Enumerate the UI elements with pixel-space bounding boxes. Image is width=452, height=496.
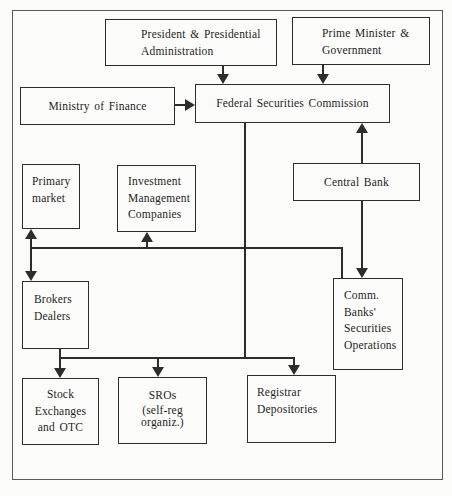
node-label: Ministry of Finance: [48, 98, 146, 115]
node-label: Operations: [344, 337, 402, 354]
node-brokers-dealers: Brokers Dealers: [22, 281, 89, 349]
node-label: Primary: [32, 173, 79, 190]
connector-primary-brokers: [30, 237, 32, 274]
node-registrar-depositories: Registrar Depositories: [247, 375, 336, 443]
node-label: Brokers: [34, 291, 88, 308]
arrowhead-prime-minister-to-fsc: [317, 74, 329, 84]
arrowhead-to-imc: [141, 232, 153, 242]
node-label: Exchanges: [23, 403, 98, 420]
node-label: Investment: [128, 173, 195, 190]
node-label: Securities: [344, 320, 402, 337]
node-sros: SROs (self-reg organiz.): [118, 377, 207, 444]
node-label: Dealers: [34, 308, 88, 325]
node-label: SROs: [119, 387, 206, 404]
arrowhead-central-bank-to-comm-banks: [356, 268, 368, 278]
node-prime-minister: Prime Minister & Government: [292, 17, 430, 65]
arrowhead-to-brokers-dealers: [25, 271, 37, 281]
arrowhead-president-to-fsc: [217, 74, 229, 84]
node-central-bank: Central Bank: [293, 163, 420, 201]
node-stock-exchanges-otc: Stock Exchanges and OTC: [22, 378, 99, 445]
node-label: Comm.: [344, 287, 402, 304]
arrowhead-to-registrar: [288, 365, 300, 375]
node-label: and OTC: [23, 419, 98, 436]
node-label: Central Bank: [324, 174, 389, 191]
node-label: organiz.): [119, 416, 206, 429]
arrowhead-to-primary-market: [25, 229, 37, 239]
connector-fsc-trunk: [244, 123, 246, 359]
node-ministry-finance: Ministry of Finance: [20, 87, 175, 125]
node-label: Registrar: [257, 384, 335, 401]
arrowhead-central-bank-to-fsc: [356, 123, 368, 133]
node-label: Stock: [23, 386, 98, 403]
node-primary-market: Primary market: [22, 164, 80, 229]
diagram-canvas: President & Presidential Administration …: [0, 0, 452, 496]
node-label: Management: [128, 190, 195, 207]
node-label: (self-reg: [119, 404, 206, 417]
node-comm-banks-securities-operations: Comm. Banks' Securities Operations: [333, 278, 403, 370]
node-label: President & Presidential: [141, 26, 276, 43]
arrowhead-to-stock-exchanges: [54, 368, 66, 378]
node-label: market: [32, 190, 79, 207]
node-label: Banks': [344, 304, 402, 321]
connector-upper-bus: [30, 247, 343, 249]
node-label: Administration: [141, 43, 276, 60]
node-federal-securities-commission: Federal Securities Commission: [195, 84, 390, 123]
connector-central-bank-to-comm-banks: [361, 201, 363, 269]
connector-upper-bus-to-comm-banks: [341, 247, 343, 278]
connector-central-bank-to-fsc: [361, 131, 363, 163]
node-label: Prime Minister &: [322, 25, 429, 42]
node-label: Federal Securities Commission: [216, 95, 369, 112]
arrowhead-to-sros: [152, 367, 164, 377]
arrowhead-ministry-to-fsc: [185, 99, 195, 111]
node-label: Companies: [128, 206, 195, 223]
node-label: Government: [322, 42, 429, 59]
node-investment-management-companies: Investment Management Companies: [117, 165, 196, 232]
node-label: Depositories: [257, 401, 335, 418]
connector-lower-bus: [59, 357, 295, 359]
node-president: President & Presidential Administration: [105, 19, 277, 66]
